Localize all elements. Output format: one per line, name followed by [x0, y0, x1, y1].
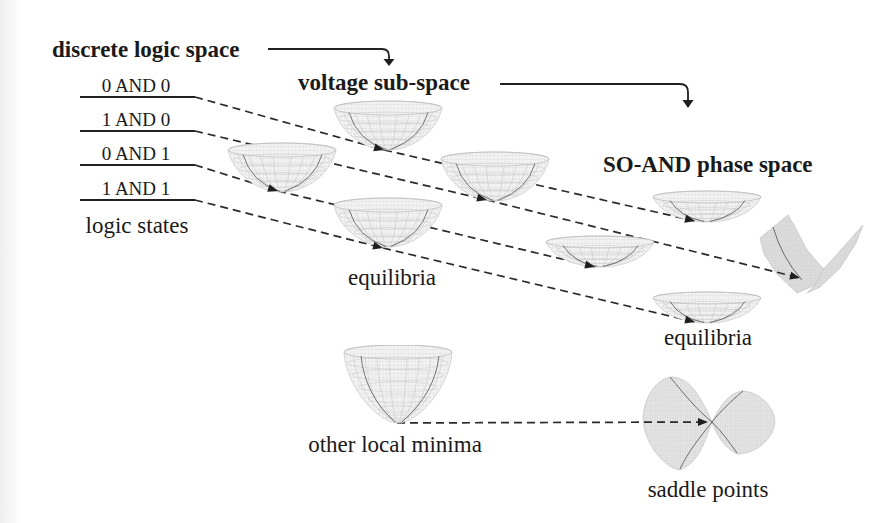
- voltage-equilibrium-bottom-bowl: [333, 197, 443, 249]
- saddle-points-caption: saddle points: [648, 477, 769, 502]
- tilted-valley-surface: [760, 215, 863, 293]
- flow-arrow-to-phase-space: [500, 84, 694, 108]
- voltage-equilibrium-top-bowl: [333, 100, 443, 152]
- so-and-phase-space-title: SO-AND phase space: [603, 152, 813, 177]
- local-minimum-bowl: [343, 345, 453, 425]
- phase-equilibrium-bottom-bowl: [652, 291, 762, 325]
- phase-equilibria-caption: equilibria: [664, 325, 752, 350]
- voltage-equilibrium-left-bowl: [227, 142, 337, 194]
- flow-arrow-to-voltage: [268, 49, 395, 66]
- voltage-sub-space-title: voltage sub-space: [298, 70, 470, 95]
- logic-state-1-and-1: 1 AND 1: [102, 178, 171, 199]
- phase-equilibrium-top-bowl: [652, 190, 762, 224]
- diagram-canvas: discrete logic space voltage sub-space S…: [0, 0, 883, 523]
- phase-equilibrium-middle-bowl: [545, 235, 655, 269]
- logic-states-caption: logic states: [86, 213, 189, 238]
- local-minima-caption: other local minima: [308, 432, 482, 457]
- discrete-logic-space-title: discrete logic space: [52, 37, 239, 62]
- logic-state-0-and-0: 0 AND 0: [102, 75, 171, 96]
- diagram-svg: discrete logic space voltage sub-space S…: [0, 0, 883, 523]
- logic-state-0-and-1: 0 AND 1: [102, 143, 171, 164]
- line-minima-to-saddle: [397, 422, 708, 423]
- logic-states-list: 0 AND 0 1 AND 0 0 AND 1 1 AND 1 logic st…: [80, 75, 195, 238]
- voltage-equilibrium-right-bowl: [440, 151, 550, 203]
- logic-state-1-and-0: 1 AND 0: [102, 109, 171, 130]
- saddle-point-surface: [643, 377, 775, 470]
- voltage-equilibria-caption: equilibria: [348, 265, 436, 290]
